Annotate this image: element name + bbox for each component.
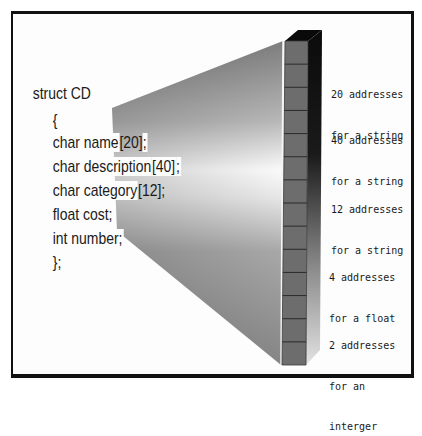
array-size-highlight: [12] <box>138 181 161 200</box>
annotation-number: 2 addresses for an interger <box>329 312 395 436</box>
struct-declaration: struct CD <box>25 64 92 104</box>
code-line-close: }; <box>45 233 62 273</box>
memory-column-side <box>306 30 322 365</box>
